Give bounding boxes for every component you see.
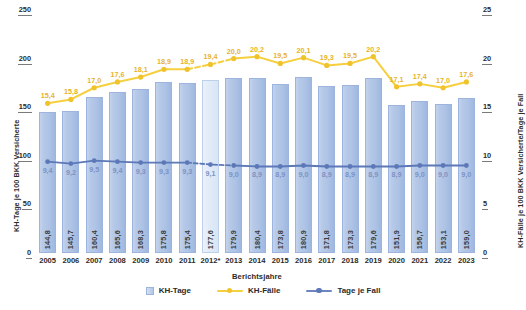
data-point-marker [394, 164, 399, 169]
data-point-marker [348, 164, 353, 169]
axis-tick-value: 5 [482, 200, 488, 210]
data-point-marker [394, 84, 399, 89]
kh-faelle-value-label: 18,1 [128, 65, 154, 74]
tage-je-fall-value-label: 9,5 [84, 165, 104, 174]
axis-tick-value: 50 [22, 200, 32, 210]
legend-swatch-line-icon [217, 287, 243, 295]
data-point-marker [161, 67, 166, 72]
axis-tick-value: 10 [482, 152, 492, 162]
data-point-marker [208, 162, 213, 167]
legend-label: KH-Tage [159, 286, 191, 295]
legend-item-kh-tage[interactable]: KH-Tage [146, 286, 191, 295]
chart-container: KH-Tage je 100 BKK Versicherte KH-Fälle … [0, 0, 526, 310]
kh-faelle-value-label: 19,4 [197, 52, 223, 61]
data-point-marker [45, 101, 50, 106]
legend-item-kh-f-lle[interactable]: KH-Fälle [217, 286, 280, 295]
kh-faelle-value-label: 20,2 [360, 45, 386, 54]
axis-tick-value: 0 [482, 249, 488, 259]
data-point-marker [324, 63, 329, 68]
data-point-marker [301, 55, 306, 60]
kh-faelle-value-label: 17,4 [407, 72, 433, 81]
tage-je-fall-value-label: 8,9 [340, 170, 360, 179]
tage-je-fall-value-label: 9,2 [61, 168, 81, 177]
legend-label: KH-Fälle [248, 286, 280, 295]
legend-label: Tage je Fall [337, 286, 380, 295]
axis-tick-right-25: 25 [482, 5, 504, 16]
data-point-marker [255, 164, 260, 169]
x-axis-title: Berichtsjahre [232, 272, 282, 281]
data-point-marker [92, 85, 97, 90]
axis-tick-value: 20 [482, 55, 492, 65]
data-point-marker [441, 85, 446, 90]
kh-faelle-value-label: 17,0 [81, 76, 107, 85]
data-point-marker [208, 62, 213, 67]
data-point-marker [417, 81, 422, 86]
y-axis-right-title: KH-Fälle je 100 BKK Versicherte/Tage je … [516, 94, 525, 248]
axis-tick-left-100: 100 [0, 151, 32, 162]
kh-faelle-value-label: 18,9 [151, 57, 177, 66]
axis-tick-value: 250 [18, 6, 32, 16]
data-point-marker [68, 161, 73, 166]
data-point-marker [464, 163, 469, 168]
axis-tick-left-150: 150 [0, 102, 32, 113]
tage-je-fall-value-label: 9,3 [154, 167, 174, 176]
axis-tick-value: 25 [482, 6, 492, 16]
axis-tick-value: 15 [482, 103, 492, 113]
axis-tick-value: 150 [18, 103, 32, 113]
tage-je-fall-value-label: 9,0 [433, 170, 453, 179]
tage-je-fall-value-label: 8,9 [317, 170, 337, 179]
data-point-marker [115, 159, 120, 164]
tage-je-fall-value-label: 8,9 [247, 170, 267, 179]
data-point-marker [441, 163, 446, 168]
data-point-marker [278, 61, 283, 66]
tage-je-fall-value-label: 9,0 [224, 170, 244, 179]
kh-faelle-value-label: 17,6 [453, 70, 479, 79]
tage-je-fall-value-label: 9,3 [131, 167, 151, 176]
data-point-marker [371, 164, 376, 169]
plot-area: 144,8145,7160,4165,6168,3175,8175,4177,6… [36, 10, 478, 253]
kh-faelle-value-label: 17,0 [430, 76, 456, 85]
data-point-marker [92, 158, 97, 163]
axis-tick-value: 100 [18, 152, 32, 162]
kh-faelle-value-label: 15,4 [35, 91, 61, 100]
axis-tick-left-0: 0 [0, 248, 32, 259]
kh-faelle-value-label: 20,0 [221, 47, 247, 56]
axis-tick-right-5: 5 [482, 199, 504, 210]
axis-tick-right-0: 0 [482, 248, 504, 259]
kh-faelle-value-label: 19,3 [314, 53, 340, 62]
x-axis-tick-2023: 2023 [451, 256, 481, 265]
axis-tick-value: 200 [18, 55, 32, 65]
kh-faelle-value-label: 18,9 [174, 57, 200, 66]
kh-faelle-value-label: 17,1 [384, 75, 410, 84]
kh-faelle-value-label: 20,2 [244, 45, 270, 54]
axis-tick-right-20: 20 [482, 54, 504, 65]
kh-faelle-value-label: 20,1 [291, 46, 317, 55]
data-point-marker [185, 67, 190, 72]
data-point-marker [45, 159, 50, 164]
data-point-marker [185, 160, 190, 165]
data-point-marker [278, 164, 283, 169]
tage-je-fall-value-label: 8,9 [363, 170, 383, 179]
kh-faelle-value-label: 19,5 [267, 51, 293, 60]
y-axis-left-title: KH-Tage je 100 BKK Versicherte [12, 120, 21, 232]
tage-je-fall-value-label: 9,4 [38, 166, 58, 175]
data-point-marker [231, 163, 236, 168]
tage-je-fall-value-label: 8,9 [387, 170, 407, 179]
data-point-marker [162, 160, 167, 165]
data-point-marker [138, 74, 143, 79]
legend-swatch-line-icon [306, 287, 332, 295]
chart-legend: KH-TageKH-FälleTage je Fall [0, 286, 526, 295]
tage-je-fall-value-label: 9,0 [294, 170, 314, 179]
axis-tick-left-250: 250 [0, 5, 32, 16]
kh-faelle-value-label: 15,8 [58, 87, 84, 96]
data-point-marker [138, 160, 143, 165]
axis-tick-right-15: 15 [482, 102, 504, 113]
data-point-marker [68, 97, 73, 102]
data-point-marker [371, 54, 376, 59]
data-point-marker [417, 163, 422, 168]
data-point-marker [324, 164, 329, 169]
axis-tick-left-50: 50 [0, 199, 32, 210]
legend-item-tage-je-fall[interactable]: Tage je Fall [306, 286, 380, 295]
data-point-marker [115, 79, 120, 84]
axis-tick-right-10: 10 [482, 151, 504, 162]
